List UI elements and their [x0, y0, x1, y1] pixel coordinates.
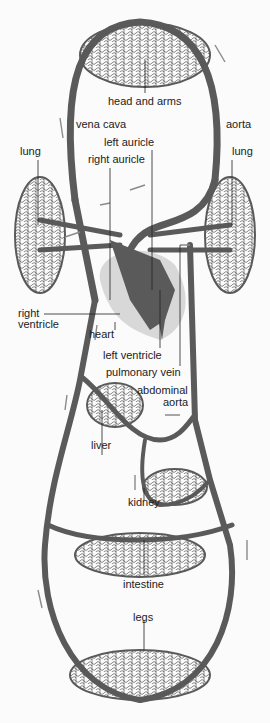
label-left-ventricle: left ventricle — [103, 349, 162, 361]
label-right-ventricle-2: ventricle — [18, 318, 59, 330]
label-heart: heart — [89, 328, 114, 340]
label-right-auricle: right auricle — [88, 153, 145, 165]
label-legs: legs — [133, 611, 153, 623]
label-lung-right: lung — [232, 145, 253, 157]
label-kidney: kidney — [128, 496, 160, 508]
label-abdominal-aorta-2: aorta — [163, 396, 188, 408]
label-left-auricle: left auricle — [104, 136, 154, 148]
label-vena-cava: vena cava — [76, 118, 126, 130]
label-abdominal-aorta-1: abdominal — [137, 384, 188, 396]
label-liver: liver — [91, 439, 111, 451]
heart-shape — [100, 240, 186, 340]
label-head-and-arms: head and arms — [108, 95, 181, 107]
label-aorta: aorta — [226, 118, 251, 130]
label-lung-left: lung — [20, 145, 41, 157]
label-pulmonary-vein: pulmonary vein — [106, 366, 181, 378]
label-intestine: intestine — [123, 578, 164, 590]
